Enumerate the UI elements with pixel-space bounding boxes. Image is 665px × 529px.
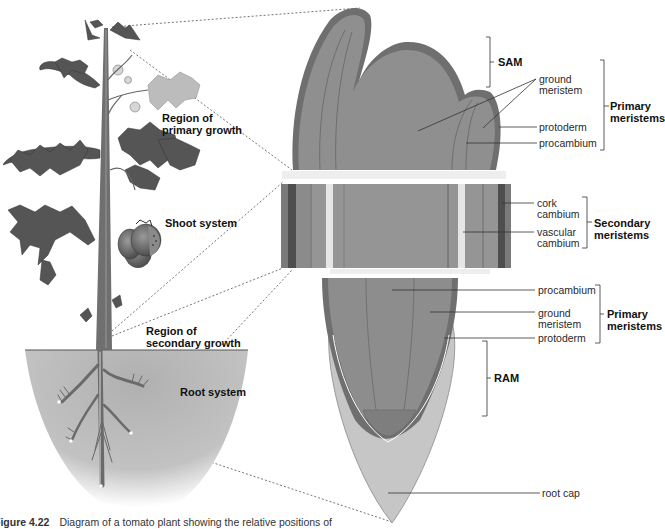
label-root-cap: root cap — [542, 488, 580, 499]
label-line: meristem — [539, 85, 582, 96]
main-stem — [96, 28, 112, 350]
label-line: Secondary — [594, 217, 650, 229]
label-line: Primary — [607, 308, 662, 320]
caption-text: Diagram of a tomato plant showing the re… — [59, 516, 332, 528]
label-line: meristems — [594, 229, 650, 241]
figure-number: Figure 4.22 — [0, 516, 49, 528]
label-line: secondary growth — [146, 337, 241, 349]
label-procambium-root: procambium — [538, 285, 596, 296]
label-line: meristems — [607, 320, 662, 332]
figure-caption: Figure 4.22Diagram of a tomato plant sho… — [0, 516, 332, 528]
label-vascular-cambium: vascular cambium — [537, 227, 580, 249]
label-line: meristem — [538, 319, 581, 330]
label-sam: SAM — [498, 56, 522, 68]
label-line: Region of — [146, 325, 241, 337]
soil-region — [25, 350, 248, 515]
label-protoderm-root: protoderm — [538, 333, 586, 344]
label-secondary-meristems: Secondary meristems — [594, 217, 650, 241]
stem-section-drawing — [281, 184, 511, 268]
shoot-apex-section — [292, 8, 500, 170]
label-line: primary growth — [162, 124, 242, 136]
root-tip-section — [322, 278, 458, 523]
label-line: Primary — [610, 100, 665, 112]
label-ground-meristem-top: ground meristem — [539, 74, 582, 96]
label-line: cambium — [537, 209, 580, 220]
label-primary-meristems-top: Primary meristems — [610, 100, 665, 124]
label-cork-cambium: cork cambium — [537, 198, 580, 220]
label-root-system: Root system — [180, 386, 246, 398]
label-region-secondary-growth: Region of secondary growth — [146, 325, 241, 349]
flowers-drawing — [113, 65, 140, 112]
label-primary-meristems-root: Primary meristems — [607, 308, 662, 332]
label-protoderm-top: protoderm — [539, 122, 587, 133]
label-line: cambium — [537, 238, 580, 249]
label-line: meristems — [610, 112, 665, 124]
label-procambium-top: procambium — [539, 138, 597, 149]
label-shoot-system: Shoot system — [165, 217, 237, 229]
label-ground-meristem-root: ground meristem — [538, 308, 581, 330]
label-line: Region of — [162, 112, 242, 124]
young-leaves-drawing — [148, 72, 200, 110]
tomato-fruit-drawing — [118, 220, 161, 268]
label-ram: RAM — [494, 372, 519, 384]
label-region-primary-growth: Region of primary growth — [162, 112, 242, 136]
